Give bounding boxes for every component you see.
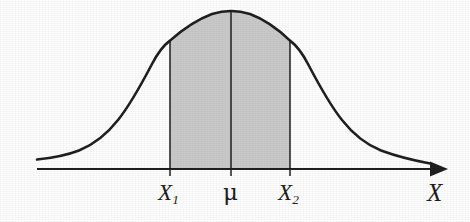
x2-tick-label-subscript: 2 xyxy=(292,192,299,207)
x1-tick-label-subscript: 1 xyxy=(172,192,179,207)
x2-tick-label: X2 xyxy=(278,181,299,204)
x-axis-title: X xyxy=(427,180,442,205)
shaded-probability-area xyxy=(170,11,290,169)
x-axis-arrow-icon xyxy=(430,162,448,177)
x1-tick-label-text: X xyxy=(158,180,172,205)
x1-tick-label: X1 xyxy=(158,181,179,204)
mean-tick-label: μ xyxy=(223,181,238,204)
normal-distribution-figure: X1 μ X2 X xyxy=(0,0,470,222)
x2-tick-label-text: X xyxy=(278,180,292,205)
